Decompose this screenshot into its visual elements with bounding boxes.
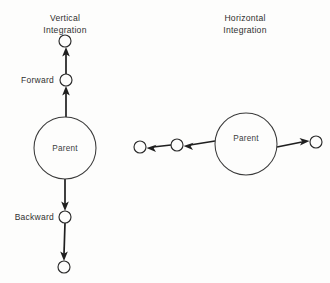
vertical-forward-node[interactable] xyxy=(60,74,72,86)
horizontal-right-node[interactable] xyxy=(310,136,322,148)
edge-backward-to-bottom xyxy=(60,223,68,261)
vertical-integration-title-line2: Integration xyxy=(43,25,86,35)
vertical-bottom-terminal-node[interactable] xyxy=(58,261,70,273)
horizontal-mid-left-node[interactable] xyxy=(171,139,183,151)
edge-parent-to-mid-left-line xyxy=(190,141,215,145)
vertical-top-terminal-node[interactable] xyxy=(59,35,71,47)
horizontal-parent-label: Parent xyxy=(233,134,259,143)
edge-mid-left-to-far-left xyxy=(147,145,172,152)
backward-label: Backward xyxy=(15,212,54,222)
edge-parent-to-right xyxy=(277,138,310,147)
horizontal-far-left-node[interactable] xyxy=(134,141,146,153)
edge-parent-to-forward xyxy=(62,86,70,117)
vertical-parent-label: Parent xyxy=(52,144,78,153)
horizontal-parent-node[interactable] xyxy=(215,113,277,175)
forward-label: Forward xyxy=(21,75,54,85)
edge-forward-to-top xyxy=(62,47,70,74)
edge-parent-to-mid-left xyxy=(184,141,216,150)
edge-parent-to-right-line xyxy=(277,142,302,147)
vertical-backward-node[interactable] xyxy=(59,211,71,223)
arrow-head-left-mid xyxy=(184,143,194,150)
horizontal-integration-panel: Horizontal Integration P xyxy=(134,13,322,175)
edge-parent-to-backward xyxy=(61,179,69,211)
vertical-integration-title-line1: Vertical xyxy=(50,13,80,23)
vertical-integration-panel: Vertical Integration xyxy=(15,13,96,273)
horizontal-integration-title-line2: Integration xyxy=(223,25,266,35)
edge-backward-to-bottom-line xyxy=(64,223,65,254)
arrow-head-left-far xyxy=(147,145,157,152)
diagram-root: Vertical Integration xyxy=(0,0,330,283)
diagram-canvas: Vertical Integration xyxy=(0,0,330,283)
horizontal-integration-title-line1: Horizontal xyxy=(224,13,265,23)
